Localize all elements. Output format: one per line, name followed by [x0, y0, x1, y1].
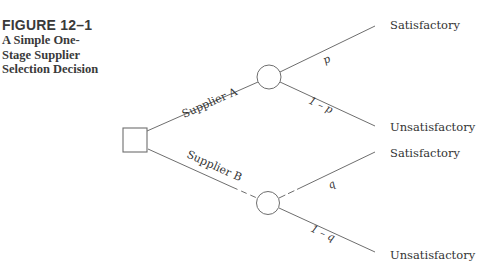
probability-q: q: [326, 177, 337, 191]
probability-1-minus-q: 1 – q: [309, 222, 337, 244]
outcome-a-satisfactory-line: [280, 26, 375, 72]
outcome-label-b-satisfactory: Satisfactory: [390, 146, 461, 160]
decision-tree: Supplier A Supplier B p 1 – p q 1 – q Sa…: [0, 0, 491, 272]
outcome-label-a-satisfactory: Satisfactory: [390, 18, 461, 32]
branch-supplier-b-line-dashed: [232, 187, 257, 198]
chance-node-a: [257, 65, 281, 89]
chance-node-b: [257, 192, 280, 215]
probability-p: p: [321, 52, 332, 66]
outcome-label-b-unsatisfactory: Unsatisfactory: [390, 248, 476, 262]
outcome-label-a-unsatisfactory: Unsatisfactory: [390, 120, 476, 134]
outcome-b-satisfactory-line: [300, 152, 375, 188]
branch-label-supplier-a: Supplier A: [180, 85, 240, 121]
outcome-b-satisfactory-line-dashed: [279, 188, 300, 198]
decision-node-square: [123, 128, 147, 152]
probability-1-minus-p: 1 – p: [307, 94, 335, 116]
